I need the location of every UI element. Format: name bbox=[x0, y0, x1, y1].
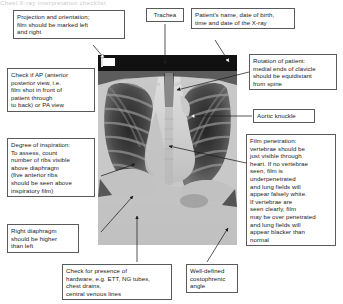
annotation-right-diaphragm: Right diaphragm should be higher than le… bbox=[7, 224, 79, 253]
projection-line-2: film should be marked left bbox=[17, 21, 121, 29]
penetration-line-1: Film penetration: bbox=[250, 137, 332, 145]
rotation-line-3: should be equidistant bbox=[253, 72, 333, 80]
annotation-film-penetration: Film penetration: vertebrae should be ju… bbox=[246, 134, 336, 246]
hardware-line-4: central venous lines bbox=[66, 290, 168, 298]
penetration-line-8: appear falsely white. bbox=[250, 190, 332, 198]
inspiration-line-7: inspiratory film) bbox=[11, 187, 91, 195]
annotation-aortic-knuckle: Aortic knuckle bbox=[253, 109, 315, 123]
trachea-label-text: Trachea bbox=[150, 11, 180, 19]
annotation-hardware-check: Check for presence of hardware, e.g. ETT… bbox=[62, 264, 172, 300]
ap-line-2: posterior view, i.e. bbox=[11, 79, 91, 87]
projection-line-1: Projection and orientation; bbox=[17, 13, 121, 21]
penetration-line-5: seen, film is bbox=[250, 167, 332, 175]
costophrenic-line-1: Well-defined bbox=[190, 267, 234, 275]
annotation-ap-versus-pa: Check if AP (anterior posterior view, i.… bbox=[7, 68, 95, 112]
rotation-line-4: from spine bbox=[253, 80, 333, 88]
penetration-line-2: vertebrae should be bbox=[250, 145, 332, 153]
penetration-line-11: may be over penetrated bbox=[250, 213, 332, 221]
inspiration-line-4: above diaphragm bbox=[11, 164, 91, 172]
projection-line-3: and right bbox=[17, 28, 121, 36]
inspiration-line-1: Degree of inspiration: bbox=[11, 141, 91, 149]
figure-root: Chest X-ray interpretation checklist bbox=[0, 0, 343, 304]
costophrenic-line-3: angle bbox=[190, 282, 234, 290]
penetration-line-9: If vertebrae are bbox=[250, 198, 332, 206]
penetration-line-12: and lung fields will bbox=[250, 221, 332, 229]
diaphragm-line-1: Right diaphragm bbox=[11, 227, 75, 235]
annotation-patient-details: Patient's name, date of birth, time and … bbox=[191, 8, 295, 29]
inspiration-line-3: number of ribs visible bbox=[11, 156, 91, 164]
penetration-line-14: normal bbox=[250, 236, 332, 244]
annotation-costophrenic-angle: Well-defined costophrenic angle bbox=[186, 264, 238, 293]
diaphragm-line-2: should be higher bbox=[11, 235, 75, 243]
hardware-line-2: hardware, e.g. ETT, NG tubes, bbox=[66, 275, 168, 283]
penetration-line-10: seen clearly, film bbox=[250, 205, 332, 213]
diaphragm-line-3: than left bbox=[11, 242, 75, 250]
inspiration-line-2: To assess, count bbox=[11, 149, 91, 157]
annotation-degree-of-inspiration: Degree of inspiration: To assess, count … bbox=[7, 138, 95, 197]
hardware-line-3: chest drains, bbox=[66, 282, 168, 290]
ap-line-4: patient through bbox=[11, 94, 91, 102]
rotation-line-1: Rotation of patient: bbox=[253, 57, 333, 65]
ap-line-1: Check if AP (anterior bbox=[11, 71, 91, 79]
annotation-projection-and-orientation: Projection and orientation; film should … bbox=[13, 10, 125, 39]
penetration-line-7: and lung fields will bbox=[250, 183, 332, 191]
chest-xray-image bbox=[98, 55, 237, 245]
ap-line-3: film shot in front of bbox=[11, 86, 91, 94]
penetration-line-6: underpenetrated bbox=[250, 175, 332, 183]
penetration-line-4: heart. If no vertebrae bbox=[250, 160, 332, 168]
ap-line-5: to back) or PA view bbox=[11, 101, 91, 109]
inspiration-line-6: should be seen above bbox=[11, 179, 91, 187]
aortic-knuckle-text: Aortic knuckle bbox=[257, 112, 311, 120]
rotation-line-2: medial ends of clavicle bbox=[253, 65, 333, 73]
annotation-trachea: Trachea bbox=[146, 8, 184, 22]
inspiration-line-5: (five anterior ribs bbox=[11, 171, 91, 179]
penetration-line-13: appear blacker than bbox=[250, 228, 332, 236]
patient-details-line-1: Patient's name, date of birth, bbox=[195, 11, 291, 19]
costophrenic-line-2: costophrenic bbox=[190, 275, 234, 283]
patient-details-line-2: time and date of the X-ray bbox=[195, 19, 291, 27]
hardware-line-1: Check for presence of bbox=[66, 267, 168, 275]
annotation-rotation: Rotation of patient: medial ends of clav… bbox=[249, 54, 337, 90]
penetration-line-3: just visible through bbox=[250, 152, 332, 160]
cropped-top-text: Chest X-ray interpretation checklist bbox=[0, 0, 343, 7]
